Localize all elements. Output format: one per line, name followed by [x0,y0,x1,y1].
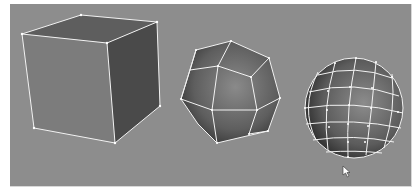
cube-face-front [22,34,115,143]
sphere-object[interactable] [304,57,403,158]
scene [0,0,416,195]
arrow-cursor-icon [343,166,350,177]
low-poly-sphere-object[interactable] [180,40,281,144]
cube-object[interactable] [21,14,161,144]
